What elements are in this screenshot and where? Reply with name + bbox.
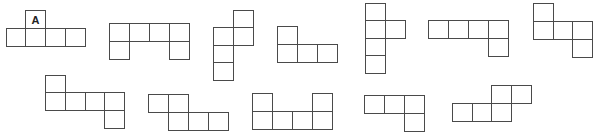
cube-nets-diagram: A <box>0 0 595 135</box>
net-square <box>148 94 169 113</box>
net-square <box>85 92 106 111</box>
net-square <box>572 39 593 58</box>
net-square <box>45 28 66 47</box>
net-square <box>533 3 554 22</box>
net-square <box>488 20 509 39</box>
net-square <box>384 95 405 114</box>
net-square <box>511 85 532 104</box>
net-square <box>45 92 66 111</box>
net-square <box>25 28 46 47</box>
net-square <box>404 113 425 132</box>
net-square <box>277 44 298 63</box>
face-label: A <box>26 11 45 28</box>
net-square <box>65 28 86 47</box>
net-square <box>169 23 190 42</box>
net-square <box>472 103 493 122</box>
net-square <box>104 92 125 111</box>
net-square <box>213 62 234 81</box>
net-square <box>252 111 273 130</box>
net-square <box>572 21 593 40</box>
net-square <box>312 111 333 130</box>
net-square <box>385 20 406 39</box>
net-square <box>104 110 125 129</box>
net-square <box>169 41 190 60</box>
net-square <box>533 21 554 40</box>
net-square <box>468 20 489 39</box>
net-square <box>365 55 386 74</box>
net-square <box>365 20 386 39</box>
net-square <box>297 44 318 63</box>
net-square <box>404 95 425 114</box>
net-square <box>452 103 473 122</box>
net-square <box>109 41 130 60</box>
net-square <box>109 23 130 42</box>
net-square <box>272 111 293 130</box>
net-square <box>292 111 313 130</box>
net-square <box>252 93 273 112</box>
net-square <box>65 92 86 111</box>
net-square <box>6 28 27 47</box>
net-square <box>277 26 298 45</box>
net-square: A <box>25 10 46 29</box>
net-square <box>233 27 254 46</box>
net-square <box>428 20 449 39</box>
net-square <box>448 20 469 39</box>
net-square <box>364 95 385 114</box>
net-square <box>312 93 333 112</box>
net-square <box>491 103 512 122</box>
net-square <box>488 38 509 57</box>
net-square <box>317 44 338 63</box>
net-square <box>188 112 209 131</box>
net-square <box>553 21 574 40</box>
net-square <box>149 23 170 42</box>
net-square <box>129 23 150 42</box>
net-square <box>168 112 189 131</box>
net-square <box>213 27 234 46</box>
net-square <box>208 112 229 131</box>
net-square <box>168 94 189 113</box>
net-square <box>491 85 512 104</box>
